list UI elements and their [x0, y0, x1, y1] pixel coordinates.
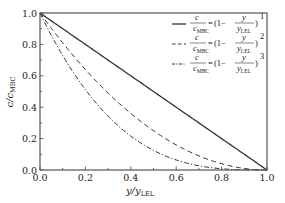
- y-tick-label: 1.0: [22, 8, 37, 19]
- legend-lhs-num: c: [195, 32, 199, 42]
- legend-lhs-den: cMBC: [193, 63, 209, 74]
- legend-lhs-num: c: [195, 52, 199, 62]
- x-tick-label: 0.2: [78, 172, 93, 183]
- legend-frac-den: yLEL: [236, 63, 252, 74]
- legend: c cMBC = (1− y yLEL ) 1 c cMBC = (1− y y…: [172, 11, 264, 74]
- legend-close: ): [255, 18, 258, 28]
- legend-exponent: 3: [260, 51, 264, 61]
- y-tick-label: 0.4: [22, 102, 37, 113]
- legend-eq: =: [208, 38, 213, 48]
- legend-exponent: 2: [260, 31, 264, 41]
- legend-item-exp3: c cMBC = (1− y yLEL ) 3: [172, 51, 264, 74]
- x-tick-label: 1.0: [259, 172, 274, 183]
- legend-one-minus: (1−: [214, 58, 226, 68]
- legend-one-minus: (1−: [214, 38, 226, 48]
- legend-item-exp1: c cMBC = (1− y yLEL ) 1: [172, 11, 264, 34]
- y-tick-label: 0.0: [22, 165, 37, 176]
- x-axis-title: y/yLEL: [125, 185, 155, 198]
- y-axis-title: c/cMBC: [4, 76, 17, 107]
- y-tick-label: 0.2: [22, 133, 37, 144]
- x-tick-label: 0.6: [169, 172, 184, 183]
- legend-eq: =: [208, 58, 213, 68]
- x-tick-label: 0.4: [123, 172, 138, 183]
- x-tick-label: 0.8: [214, 172, 229, 183]
- legend-close: ): [255, 58, 258, 68]
- legend-frac-num: y: [241, 52, 246, 62]
- legend-close: ): [255, 38, 258, 48]
- y-tick-label: 0.6: [22, 70, 37, 81]
- y-tick-label: 0.8: [22, 39, 37, 50]
- legend-item-exp2: c cMBC = (1− y yLEL ) 2: [172, 31, 264, 54]
- legend-eq: =: [208, 18, 213, 28]
- legend-frac-num: y: [241, 32, 246, 42]
- legend-one-minus: (1−: [214, 18, 226, 28]
- chart-canvas: 0.00.20.40.60.81.0 0.00.20.40.60.81.0 y/…: [0, 0, 285, 203]
- x-axis-ticks: 0.00.20.40.60.81.0: [32, 167, 274, 184]
- series-line-exp1: [40, 13, 267, 170]
- plot-area: [40, 13, 267, 170]
